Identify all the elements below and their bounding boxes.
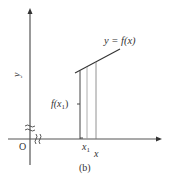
origin-label: O [19, 141, 26, 152]
x-axis-label: x [93, 148, 99, 159]
y-axis-label: y [11, 72, 22, 78]
figure-caption: (b) [79, 162, 91, 174]
fx1-label: f(x1) [51, 98, 68, 111]
diagram-canvas: y = f(x) y O x f(x1) x1 (b) [0, 0, 172, 186]
curve-line [75, 49, 120, 73]
x-axis-arrow-icon [156, 137, 162, 142]
y-axis-arrow-icon [28, 8, 33, 14]
curve-label: y = f(x) [103, 35, 136, 47]
x1-label: x1 [81, 141, 90, 154]
